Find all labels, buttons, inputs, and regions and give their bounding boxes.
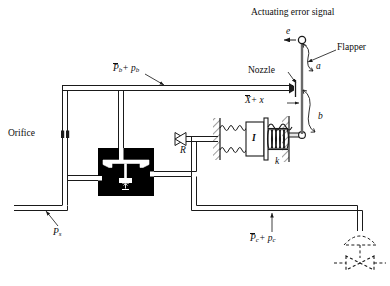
pc-bar-symbol: P	[250, 233, 256, 243]
supply-pressure-label: Ps	[53, 228, 62, 238]
relay-valve-body	[98, 148, 154, 196]
pb-rest: + p	[122, 63, 136, 73]
nozzle-tip	[289, 80, 296, 97]
pb-rest-subscript: b	[136, 66, 140, 74]
schematic-diagram	[0, 0, 390, 286]
pc-rest-subscript: c	[272, 236, 275, 244]
pressure-c-label: Pc+ pc	[250, 234, 276, 244]
left-wall-support	[213, 118, 220, 160]
inertia-I-label: I	[252, 134, 256, 144]
dimension-brace-a	[303, 44, 313, 71]
nozzle-label: Nozzle	[248, 66, 275, 76]
valve-actuator-dome	[344, 236, 376, 258]
restriction-R-label: R	[180, 146, 186, 156]
dimension-b-label: b	[318, 112, 323, 122]
displacement-rest: + x	[251, 95, 264, 105]
dimension-a-label: a	[316, 62, 321, 72]
flapper-label: Flapper	[337, 43, 366, 53]
pb-bar-symbol: P	[113, 63, 119, 73]
bellows-upper-coil	[220, 126, 246, 131]
orifice-label: Orifice	[8, 129, 35, 139]
displacement-label: X+ x	[245, 96, 264, 106]
restriction-valve-R	[175, 133, 186, 146]
pc-rest: + p	[259, 233, 273, 243]
right-wall-support	[282, 116, 289, 162]
actuating-error-signal-label: Actuating error signal	[251, 8, 334, 18]
bellows-lower-coil	[220, 148, 246, 153]
pressure-b-label: Pb+ pb	[113, 64, 139, 74]
figure-root: Actuating error signal e Flapper a b Noz…	[0, 0, 390, 286]
flapper-assembly	[298, 36, 305, 134]
spring-k-label: k	[275, 157, 279, 167]
error-signal-symbol: e	[286, 27, 290, 37]
dimension-brace-b	[303, 90, 315, 132]
ps-subscript: s	[59, 230, 62, 238]
displacement-bar-symbol: X	[245, 95, 251, 105]
orifice-restriction	[61, 131, 69, 139]
dashpot-block	[246, 118, 268, 160]
control-valve-symbol	[334, 256, 386, 270]
